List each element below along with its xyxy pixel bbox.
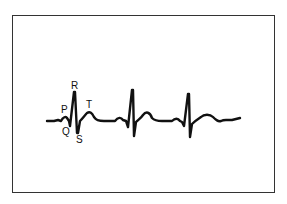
ecg-trace xyxy=(47,90,240,137)
label-t: T xyxy=(86,99,92,110)
ecg-diagram: P Q R S T xyxy=(0,0,287,204)
label-p: P xyxy=(61,104,68,115)
label-s: S xyxy=(76,134,83,145)
label-r: R xyxy=(71,80,78,91)
label-q: Q xyxy=(62,126,70,137)
